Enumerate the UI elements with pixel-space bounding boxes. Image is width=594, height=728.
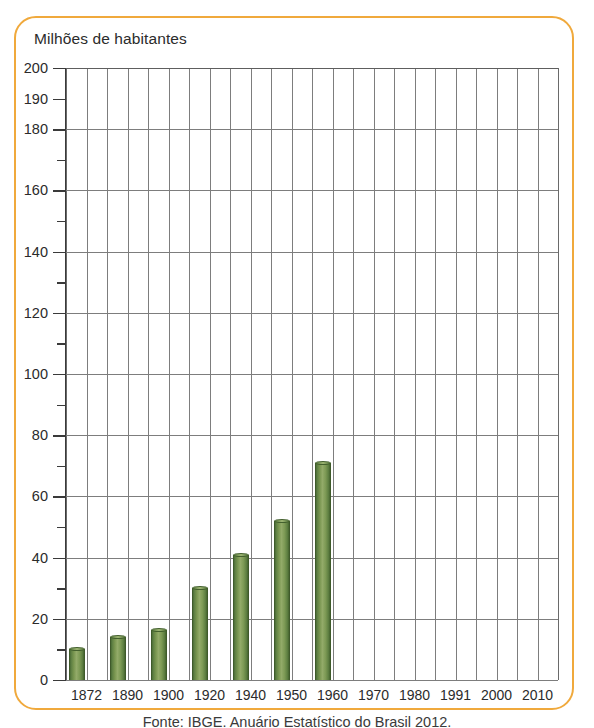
bar	[274, 521, 290, 680]
x-axis-label: 1960	[317, 687, 348, 703]
bar	[192, 588, 208, 680]
y-axis-label: 120	[24, 305, 48, 321]
y-axis-tick	[57, 221, 66, 222]
bar-top-cap	[274, 519, 290, 523]
y-axis-label: 200	[24, 60, 48, 76]
gridline-horizontal	[66, 190, 558, 191]
y-axis-tick	[57, 588, 66, 589]
y-axis-label: 180	[24, 121, 48, 137]
x-axis-label: 1890	[112, 687, 143, 703]
gridline-horizontal	[66, 129, 558, 130]
y-axis-tick	[53, 374, 66, 375]
chart-figure-frame: Milhões de habitantes 020406080100120140…	[14, 16, 574, 710]
x-axis-label: 1991	[440, 687, 471, 703]
gridline-horizontal	[66, 619, 558, 620]
bar-top-cap	[110, 635, 126, 639]
y-axis-label: 100	[24, 366, 48, 382]
bar-top-cap	[315, 461, 331, 465]
y-axis-label: 60	[32, 488, 48, 504]
y-axis-label: 40	[32, 550, 48, 566]
gridline-vertical	[558, 68, 559, 680]
bar	[151, 630, 167, 680]
y-axis-label: 20	[32, 611, 48, 627]
y-axis-tick	[57, 527, 66, 528]
y-axis-tick	[57, 343, 66, 344]
chart-title: Milhões de habitantes	[34, 30, 187, 48]
x-axis-label: 1970	[358, 687, 389, 703]
bar-top-cap	[192, 586, 208, 590]
bar	[110, 637, 126, 680]
plot-area: 020406080100120140160180190200 187218901…	[66, 68, 558, 680]
y-axis-tick	[53, 680, 66, 681]
x-axis-label: 1940	[235, 687, 266, 703]
bar-top-cap	[233, 553, 249, 557]
y-axis-tick	[53, 619, 66, 620]
gridline-horizontal	[66, 374, 558, 375]
y-axis-tick	[53, 252, 66, 253]
x-axis-label: 2000	[481, 687, 512, 703]
y-axis-tick	[53, 129, 66, 130]
y-axis-label: 80	[32, 427, 48, 443]
x-axis-label: 1920	[194, 687, 225, 703]
y-axis-label: 0	[40, 672, 48, 688]
y-axis-label: 160	[24, 182, 48, 198]
x-axis-label: 2010	[522, 687, 553, 703]
y-axis-tick	[53, 68, 66, 69]
gridline-horizontal	[66, 68, 558, 69]
y-axis-tick	[53, 435, 66, 436]
y-axis-tick	[57, 649, 66, 650]
x-axis-label: 1900	[153, 687, 184, 703]
figure-caption: Fonte: IBGE. Anuário Estatístico do Bras…	[0, 714, 594, 728]
gridline-horizontal	[66, 680, 558, 681]
bar-top-cap	[151, 628, 167, 632]
bar-top-cap	[69, 647, 85, 651]
y-axis-tick	[57, 405, 66, 406]
y-axis-tick	[53, 313, 66, 314]
x-axis-label: 1980	[399, 687, 430, 703]
gridline-horizontal	[66, 496, 558, 497]
y-axis-tick	[57, 282, 66, 283]
x-axis-label: 1872	[71, 687, 102, 703]
y-axis-tick	[53, 99, 66, 100]
y-axis-label: 140	[24, 244, 48, 260]
bar	[233, 555, 249, 680]
gridline-horizontal	[66, 435, 558, 436]
y-axis-tick	[57, 466, 66, 467]
gridline-horizontal	[66, 252, 558, 253]
y-axis-tick	[53, 496, 66, 497]
y-axis-tick	[57, 160, 66, 161]
bar	[315, 463, 331, 680]
x-axis-label: 1950	[276, 687, 307, 703]
bar	[69, 649, 85, 680]
gridline-horizontal	[66, 313, 558, 314]
y-axis-label: 190	[24, 91, 48, 107]
gridline-horizontal	[66, 558, 558, 559]
y-axis-tick	[53, 558, 66, 559]
y-axis-tick	[53, 190, 66, 191]
